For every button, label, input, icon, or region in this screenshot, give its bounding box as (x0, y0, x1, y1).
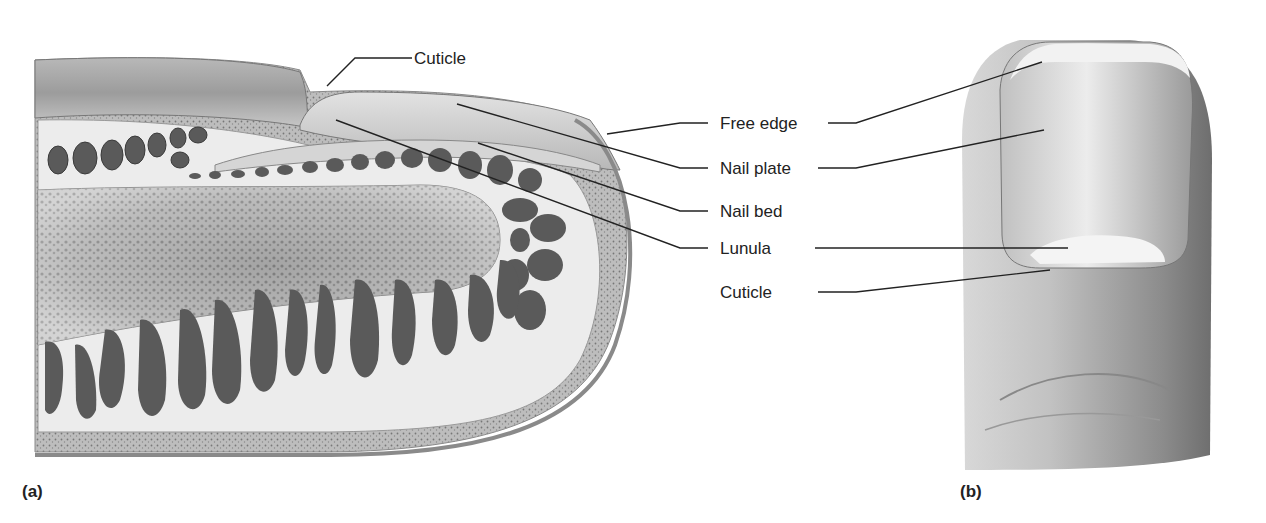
panel-a-illustration (35, 58, 630, 455)
label-cuticle-section: Cuticle (414, 50, 466, 67)
label-nail-plate: Nail plate (720, 160, 791, 177)
label-cuticle-dorsal: Cuticle (720, 284, 772, 301)
label-lunula: Lunula (720, 240, 771, 257)
label-free-edge: Free edge (720, 115, 798, 132)
label-nail-bed: Nail bed (720, 203, 782, 220)
panel-label-b: (b) (960, 482, 982, 502)
panel-b-illustration (962, 40, 1212, 470)
fingertip-section-illustration (0, 0, 1266, 523)
panel-label-a: (a) (22, 482, 43, 502)
